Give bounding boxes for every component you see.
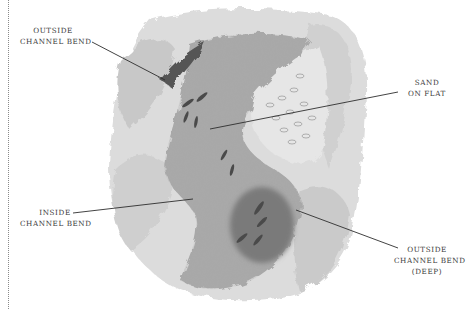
label-line: CHANNEL BEND bbox=[20, 36, 86, 47]
label-outside-channel-bend-deep: OUTSIDE CHANNEL BEND (DEEP) bbox=[394, 244, 460, 277]
label-sand-on-flat: SAND ON FLAT bbox=[400, 77, 454, 99]
label-line: CHANNEL BEND bbox=[394, 255, 460, 266]
label-line: (DEEP) bbox=[394, 266, 460, 277]
label-inside-channel-bend: INSIDE CHANNEL BEND bbox=[20, 207, 90, 229]
label-line: SAND bbox=[400, 77, 454, 88]
label-line: ON FLAT bbox=[400, 88, 454, 99]
label-outside-channel-bend-top: OUTSIDE CHANNEL BEND bbox=[20, 25, 86, 47]
label-line: OUTSIDE bbox=[20, 25, 86, 36]
label-line: CHANNEL BEND bbox=[20, 218, 90, 229]
label-line: INSIDE bbox=[20, 207, 90, 218]
label-line: OUTSIDE bbox=[394, 244, 460, 255]
